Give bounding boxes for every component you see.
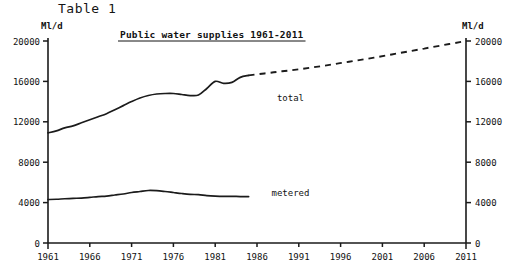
y-tick-label-right: 12000: [475, 117, 502, 127]
y-axis-unit-right: Ml/d: [462, 21, 484, 31]
x-tick-label: 1996: [330, 252, 352, 262]
x-tick-label: 2006: [413, 252, 435, 262]
x-tick-label: 1976: [163, 252, 185, 262]
x-tick-label: 1961: [37, 252, 59, 262]
y-tick-label-right: 4000: [475, 198, 497, 208]
y-tick-label-left: 0: [35, 239, 40, 249]
x-tick-label: 1986: [246, 252, 268, 262]
y-tick-label-left: 20000: [13, 37, 40, 47]
y-tick-label-right: 20000: [475, 37, 502, 47]
series-line-metered: [48, 190, 249, 199]
y-tick-label-left: 8000: [18, 158, 40, 168]
x-tick-label: 2001: [372, 252, 394, 262]
y-tick-label-left: 4000: [18, 198, 40, 208]
y-axis-unit-left: Ml/d: [41, 21, 63, 31]
chart-title: Public water supplies 1961-2011: [120, 29, 304, 40]
x-tick-label: 1966: [79, 252, 101, 262]
y-tick-label-right: 0: [475, 239, 480, 249]
x-tick-label: 1981: [204, 252, 226, 262]
y-tick-label-right: 8000: [475, 158, 497, 168]
y-tick-label-left: 16000: [13, 77, 40, 87]
x-tick-label: 1991: [288, 252, 310, 262]
y-tick-label-right: 16000: [475, 77, 502, 87]
series-line-total: [48, 75, 249, 133]
x-tick-label: 1971: [121, 252, 143, 262]
x-tick-label: 2011: [455, 252, 477, 262]
water-supply-line-chart: 0400080001200016000200000400080001200016…: [0, 0, 527, 269]
series-label-metered: metered: [271, 188, 309, 198]
y-tick-label-left: 12000: [13, 117, 40, 127]
series-label-total: total: [277, 93, 304, 103]
series-line-total-projection: [249, 41, 466, 75]
